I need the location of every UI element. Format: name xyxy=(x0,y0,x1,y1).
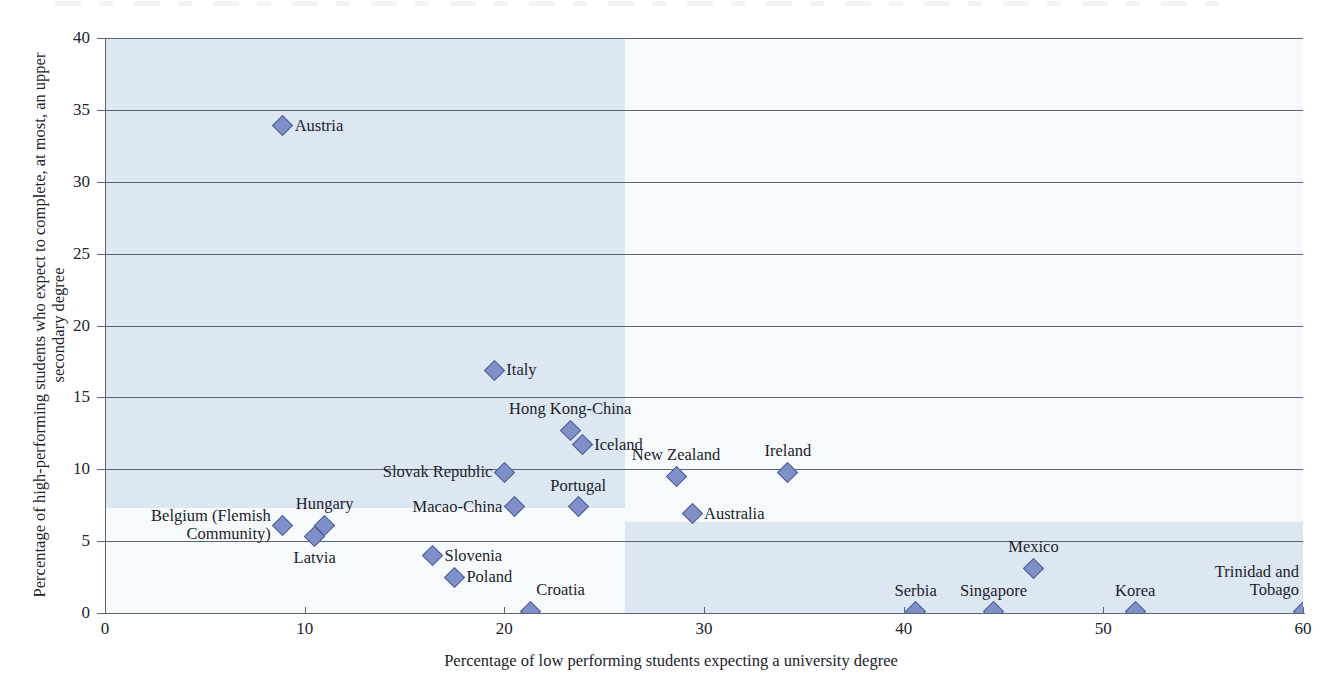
y-tick-10 xyxy=(97,469,106,470)
x-tick-label-20: 20 xyxy=(474,619,534,639)
x-axis-line xyxy=(105,613,1305,614)
point-label-croatia: Croatia xyxy=(536,581,585,599)
scan-artifact xyxy=(55,1,1235,6)
point-label-austria: Austria xyxy=(295,117,344,135)
plot-area xyxy=(105,38,1303,613)
y-tick-35 xyxy=(97,110,106,111)
y-tick-25 xyxy=(97,254,106,255)
x-axis-title: Percentage of low performing students ex… xyxy=(0,651,1342,671)
point-label-trinidad-and-tobago: Trinidad and Tobago xyxy=(1215,563,1299,599)
gridline-y-20 xyxy=(105,326,1303,327)
y-tick-40 xyxy=(97,38,106,39)
gridline-y-35 xyxy=(105,110,1303,111)
x-tick-20 xyxy=(504,607,505,614)
point-label-portugal: Portugal xyxy=(428,477,728,495)
gridline-y-40 xyxy=(105,38,1303,39)
x-tick-label-50: 50 xyxy=(1073,619,1133,639)
point-label-new-zealand: New Zealand xyxy=(526,446,826,464)
point-label-poland: Poland xyxy=(466,568,512,586)
gridline-y-15 xyxy=(105,397,1303,398)
x-tick-label-0: 0 xyxy=(75,619,135,639)
x-tick-60 xyxy=(1303,607,1304,614)
x-tick-label-10: 10 xyxy=(275,619,335,639)
x-tick-30 xyxy=(704,607,705,614)
x-tick-40 xyxy=(904,607,905,614)
x-tick-label-40: 40 xyxy=(874,619,934,639)
point-label-hong-kong-china: Hong Kong-China xyxy=(420,400,720,418)
scatter-chart: 0510152025303540 0102030405060 AustriaIt… xyxy=(0,0,1342,687)
y-tick-15 xyxy=(97,397,106,398)
y-tick-30 xyxy=(97,182,106,183)
x-tick-50 xyxy=(1103,607,1104,614)
point-label-slovenia: Slovenia xyxy=(444,547,502,565)
y-axis-title: Percentage of high-performing students w… xyxy=(30,25,68,625)
quadrant-top-left-shading xyxy=(105,38,625,508)
point-label-italy: Italy xyxy=(506,361,536,379)
gridline-y-10 xyxy=(105,469,1303,470)
gridline-y-25 xyxy=(105,254,1303,255)
gridline-y-30 xyxy=(105,182,1303,183)
x-tick-label-30: 30 xyxy=(674,619,734,639)
point-label-hungary: Hungary xyxy=(175,495,475,513)
point-label-australia: Australia xyxy=(704,505,764,523)
x-tick-label-60: 60 xyxy=(1273,619,1333,639)
y-tick-20 xyxy=(97,326,106,327)
point-label-mexico: Mexico xyxy=(883,538,1183,556)
point-label-latvia: Latvia xyxy=(165,549,465,567)
y-tick-5 xyxy=(97,541,106,542)
x-tick-0 xyxy=(105,607,106,614)
x-tick-10 xyxy=(305,607,306,614)
